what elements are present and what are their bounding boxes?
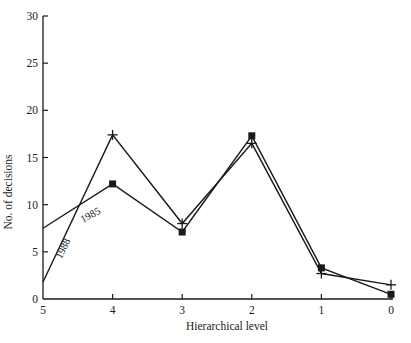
x-axis-label: Hierarchical level — [186, 320, 268, 332]
y-axis-ticks: 051015202530 — [27, 10, 49, 305]
y-tick-label: 15 — [27, 152, 39, 164]
x-tick-label: 3 — [179, 304, 185, 316]
line-chart: 051015202530 543210 Hierarchical level N… — [0, 0, 411, 343]
y-tick-label: 0 — [32, 293, 38, 305]
label-1985: 1985 — [79, 205, 103, 225]
y-tick-label: 30 — [27, 10, 39, 22]
x-tick-label: 4 — [110, 304, 116, 316]
x-tick-label: 0 — [388, 304, 394, 316]
axes — [43, 16, 393, 299]
y-axis-label: No. of decisions — [2, 154, 14, 230]
x-axis-ticks: 543210 — [40, 294, 394, 316]
y-tick-label: 25 — [27, 57, 39, 69]
cross-marker-icon — [386, 280, 396, 290]
y-tick-label: 5 — [32, 246, 38, 258]
label-1988: 1988 — [53, 237, 72, 261]
square-marker-icon — [179, 229, 186, 236]
x-tick-label: 1 — [319, 304, 325, 316]
square-marker-icon — [248, 132, 255, 139]
square-marker-icon — [388, 291, 395, 298]
y-tick-label: 10 — [27, 199, 39, 211]
x-tick-label: 2 — [249, 304, 255, 316]
x-tick-label: 5 — [40, 304, 46, 316]
annotations: 19851988 — [53, 205, 102, 260]
square-marker-icon — [109, 180, 116, 187]
y-tick-label: 20 — [27, 104, 39, 116]
